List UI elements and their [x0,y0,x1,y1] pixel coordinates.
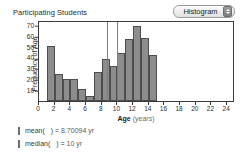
histogram-bar[interactable] [125,39,133,101]
histogram-plot-window: Participating Students Histogram Frequen… [0,0,240,157]
histogram-bar[interactable] [149,55,157,101]
histogram-frame[interactable] [38,21,234,102]
median-stat-value: 10 [66,140,74,147]
histogram-bar[interactable] [78,89,86,101]
x-axis-tick-label: 14 [144,106,151,113]
histogram-bar[interactable] [102,59,110,101]
x-axis-tick-label: 6 [83,106,87,113]
median-line-marker-icon [18,140,20,148]
median-stat-unit: yr [76,140,82,147]
x-axis-tick-label: 16 [160,106,167,113]
median-reference-line[interactable] [117,22,118,101]
plot-type-dropdown[interactable]: Histogram [173,5,235,18]
x-axis-tick-label: 12 [128,106,135,113]
x-axis: Age (years) 024681012141618202224 [38,102,234,124]
y-axis-tick-label: 50 [27,45,34,52]
x-axis-tick-label: 2 [52,106,56,113]
histogram-bar[interactable] [110,66,118,101]
stat-row-mean[interactable]: mean( ) = 8.70094 yr [18,124,232,137]
histogram-bar[interactable] [70,79,78,101]
x-axis-tick-label: 22 [207,106,214,113]
histogram-bar[interactable] [63,79,71,101]
y-axis-tick-label: 60 [27,34,34,41]
up-down-stepper-icon[interactable] [223,6,232,17]
x-axis-title-unit: (years) [133,115,155,122]
chevron-down-icon [226,12,230,14]
y-axis-tick-label: 20 [27,77,34,84]
histogram-bar[interactable] [133,26,141,101]
histogram-bar[interactable] [117,53,125,101]
histogram-bar[interactable] [141,38,149,101]
mean-stat-value: 8.70094 [61,127,86,134]
plot-type-dropdown-label: Histogram [180,7,223,16]
histogram-bars [39,22,233,101]
y-axis-tick-label: 70 [27,23,34,30]
stat-row-median[interactable]: median( ) = 10 yr [18,137,232,150]
x-axis-title-main: Age [118,115,131,122]
histogram-bar[interactable] [94,72,102,101]
statistics-list: mean( ) = 8.70094 yr median( ) = 10 yr [18,124,232,150]
x-axis-title: Age (years) [38,115,234,122]
x-axis-tick-label: 20 [191,106,198,113]
y-axis-tick-label: 10 [27,88,34,95]
x-axis-tick-label: 0 [36,106,40,113]
chevron-up-icon [226,9,230,11]
mean-reference-line[interactable] [107,22,108,101]
plot-header: Participating Students Histogram [0,0,240,23]
x-axis-tick-label: 8 [99,106,103,113]
x-axis-tick-label: 4 [68,106,72,113]
y-axis-ticks: 10203040506070 [21,21,36,102]
y-axis-tick-label: 30 [27,66,34,73]
mean-stat-unit: yr [88,127,94,134]
x-axis-tick-label: 24 [223,106,230,113]
median-stat-label: median( ) = 10 yr [25,140,82,147]
histogram-bar[interactable] [55,74,63,101]
x-axis-tick-label: 10 [113,106,120,113]
histogram-bar[interactable] [86,96,94,101]
plot-area: Frequency of Age 10203040506070 Age (yea… [13,21,235,106]
histogram-bar[interactable] [47,46,55,101]
x-axis-tick-label: 18 [175,106,182,113]
page-title: Participating Students [13,8,87,17]
mean-line-marker-icon [18,127,20,135]
y-axis-tick-label: 40 [27,56,34,63]
mean-stat-label: mean( ) = 8.70094 yr [25,127,94,134]
